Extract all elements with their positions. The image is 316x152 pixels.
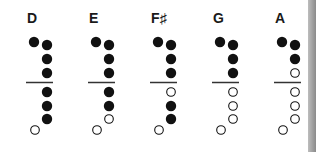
lower-open-hole-icon	[229, 88, 238, 97]
lower-closed-hole-icon	[166, 114, 176, 124]
fingering-chart: DEF♯GA	[0, 0, 316, 152]
note-column	[150, 37, 177, 135]
edge-bar	[308, 0, 316, 152]
upper-closed-hole-icon	[166, 68, 176, 78]
bottom-open-hole-icon	[217, 126, 226, 135]
upper-closed-hole-icon	[228, 68, 238, 78]
thumb-closed-hole-icon	[277, 37, 287, 47]
upper-closed-hole-icon	[42, 40, 52, 50]
fingering-holes	[0, 0, 316, 152]
thumb-closed-hole-icon	[153, 37, 163, 47]
upper-closed-hole-icon	[166, 40, 176, 50]
bottom-open-hole-icon	[279, 126, 288, 135]
lower-open-hole-icon	[291, 115, 300, 124]
upper-closed-hole-icon	[104, 68, 114, 78]
upper-closed-hole-icon	[104, 54, 114, 64]
upper-closed-hole-icon	[166, 54, 176, 64]
lower-closed-hole-icon	[104, 101, 114, 111]
lower-open-hole-icon	[291, 102, 300, 111]
lower-open-hole-icon	[105, 115, 114, 124]
upper-open-hole-icon	[291, 69, 300, 78]
bottom-open-hole-icon	[93, 126, 102, 135]
bottom-open-hole-icon	[31, 126, 40, 135]
note-column	[274, 37, 301, 135]
lower-open-hole-icon	[167, 88, 176, 97]
thumb-closed-hole-icon	[91, 37, 101, 47]
bottom-open-hole-icon	[155, 126, 164, 135]
note-column	[212, 37, 239, 135]
thumb-closed-hole-icon	[215, 37, 225, 47]
note-column	[88, 37, 115, 135]
upper-closed-hole-icon	[228, 54, 238, 64]
upper-closed-hole-icon	[290, 54, 300, 64]
lower-closed-hole-icon	[42, 114, 52, 124]
lower-open-hole-icon	[229, 115, 238, 124]
upper-closed-hole-icon	[42, 54, 52, 64]
lower-closed-hole-icon	[42, 101, 52, 111]
lower-open-hole-icon	[291, 88, 300, 97]
upper-closed-hole-icon	[290, 40, 300, 50]
thumb-closed-hole-icon	[29, 37, 39, 47]
note-column	[26, 37, 53, 135]
upper-closed-hole-icon	[42, 68, 52, 78]
lower-open-hole-icon	[229, 102, 238, 111]
lower-closed-hole-icon	[104, 87, 114, 97]
upper-closed-hole-icon	[104, 40, 114, 50]
lower-closed-hole-icon	[42, 87, 52, 97]
upper-closed-hole-icon	[228, 40, 238, 50]
lower-closed-hole-icon	[166, 101, 176, 111]
